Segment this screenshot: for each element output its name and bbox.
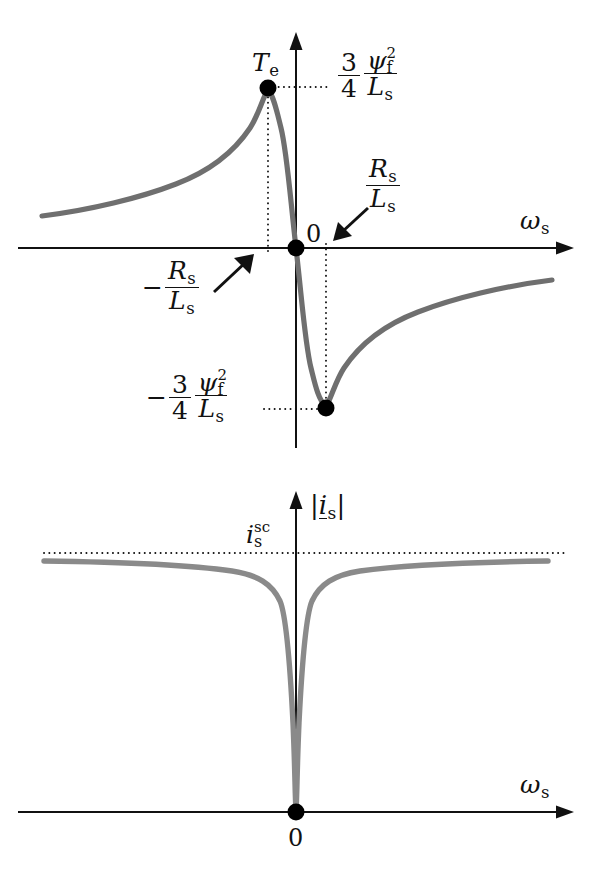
annotation-arrow-to-positive-tick [333, 208, 368, 241]
plot-top-y-tick-negative: − 34 ψf2 Ls [146, 370, 227, 425]
annotation-arrow-to-negative-tick [214, 254, 254, 292]
plot-bottom-origin-label: 0 [288, 826, 303, 850]
plot-top-y-tick-positive: 34 ψf2 Ls [338, 48, 397, 103]
plot-top-peak-label: Te [252, 50, 279, 79]
plot-top-x-tick-positive: Rs Ls [366, 156, 400, 215]
figure-root: Te 0 ωs 34 ψf2 Ls − 34 ψf2 Ls − R [0, 0, 614, 883]
plot-bottom-y-axis-label: |is| [310, 492, 345, 522]
plot-top-x-tick-negative: − Rs Ls [142, 258, 199, 317]
plot-bottom-canvas [0, 483, 614, 883]
plot-top-origin-label: 0 [306, 222, 321, 246]
origin-marker [288, 804, 305, 821]
plot-top-x-axis-label: ωs [520, 208, 549, 237]
plot-bottom-x-axis-label: ωs [520, 772, 549, 801]
plot-bottom-asymptote-label: issc [246, 522, 268, 547]
